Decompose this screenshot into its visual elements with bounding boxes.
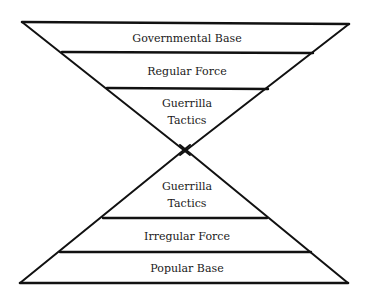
- layer-label-governmental-base: Governmental Base: [132, 32, 241, 45]
- layer-label-popular-base: Popular Base: [150, 262, 223, 275]
- layer-label-guerrilla-bottom-1: Guerrilla: [162, 180, 212, 193]
- layer-label-irregular-force: Irregular Force: [144, 230, 230, 243]
- layer-label-guerrilla-bottom-2: Tactics: [168, 197, 207, 210]
- layer-label-guerrilla-top-2: Tactics: [168, 114, 207, 127]
- layer-label-regular-force: Regular Force: [147, 65, 226, 78]
- divider-2: [107, 88, 268, 89]
- top-edge: [22, 22, 349, 24]
- hourglass-pyramid-diagram: Governmental Base Regular Force Guerrill…: [0, 0, 369, 302]
- divider-1: [62, 52, 313, 53]
- layer-label-guerrilla-top-1: Guerrilla: [162, 97, 212, 110]
